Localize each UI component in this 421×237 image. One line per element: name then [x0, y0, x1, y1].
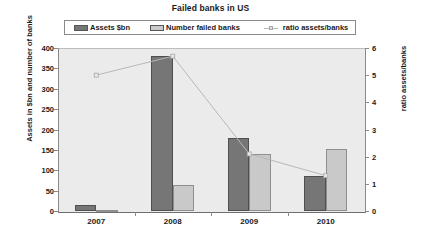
legend-item-assets[interactable]: Assets $bn — [74, 23, 130, 32]
ratio-marker-2007 — [94, 73, 98, 77]
legend-label-assets: Assets $bn — [90, 23, 130, 32]
ratio-line-series — [58, 48, 364, 211]
y-axis-right-tick-label: 4 — [372, 98, 384, 107]
y-axis-right-tick-label: 5 — [372, 71, 384, 80]
y-axis-right-tick-mark — [365, 48, 369, 49]
y-axis-left-tick-label: 350 — [30, 64, 54, 73]
y-axis-left-tick-label: 150 — [30, 146, 54, 155]
legend-item-number-failed-banks[interactable]: Number failed banks — [150, 23, 240, 32]
legend-swatch-assets-icon — [74, 25, 88, 31]
y-axis-left-tick-label: 100 — [30, 166, 54, 175]
ratio-marker-2010 — [324, 174, 328, 178]
ratio-line-path — [96, 56, 326, 176]
legend-swatch-ratio-line-icon — [264, 25, 278, 31]
y-axis-right-tick-mark — [365, 75, 369, 76]
ratio-marker-2008 — [171, 54, 175, 58]
x-axis-category-label: 2009 — [219, 217, 279, 226]
legend-label-ratio: ratio assets/banks — [283, 23, 348, 32]
y-axis-right-tick-mark — [365, 130, 369, 131]
chart-legend: Assets $bn Number failed banks ratio ass… — [64, 20, 356, 35]
y-axis-left-tick-label: 0 — [30, 207, 54, 216]
x-axis-category-label: 2010 — [296, 217, 356, 226]
y-axis-right-tick-mark — [365, 157, 369, 158]
x-axis-tick-mark — [288, 212, 289, 216]
chart-title: Failed banks in US — [0, 3, 421, 13]
y-axis-right-title: ratio assets/banks — [399, 0, 408, 164]
y-axis-right-tick-label: 1 — [372, 180, 384, 189]
y-axis-left-tick-label: 200 — [30, 126, 54, 135]
y-axis-left-tick-label: 250 — [30, 105, 54, 114]
y-axis-left-tick-mark — [54, 211, 58, 212]
y-axis-left-title: Assets in $bn and number of banks — [25, 0, 34, 164]
y-axis-left-tick-label: 300 — [30, 85, 54, 94]
y-axis-right-tick-label: 2 — [372, 153, 384, 162]
y-axis-right-tick-label: 6 — [372, 44, 384, 53]
y-axis-right-tick-mark — [365, 102, 369, 103]
y-axis-right-tick-label: 0 — [372, 207, 384, 216]
legend-label-number: Number failed banks — [166, 23, 240, 32]
y-axis-left-tick-label: 400 — [30, 44, 54, 53]
y-axis-right-tick-mark — [365, 184, 369, 185]
x-axis-tick-mark — [135, 212, 136, 216]
legend-item-ratio[interactable]: ratio assets/banks — [262, 23, 348, 32]
x-axis-category-label: 2008 — [143, 217, 203, 226]
x-axis-tick-mark — [211, 212, 212, 216]
chart-container: Failed banks in US Assets $bn Number fai… — [0, 0, 421, 237]
legend-swatch-number-icon — [150, 25, 164, 31]
y-axis-left-tick-label: 50 — [30, 187, 54, 196]
ratio-marker-2009 — [247, 152, 251, 156]
y-axis-right-tick-mark — [365, 211, 369, 212]
x-axis-category-label: 2007 — [66, 217, 126, 226]
y-axis-right-tick-label: 3 — [372, 126, 384, 135]
